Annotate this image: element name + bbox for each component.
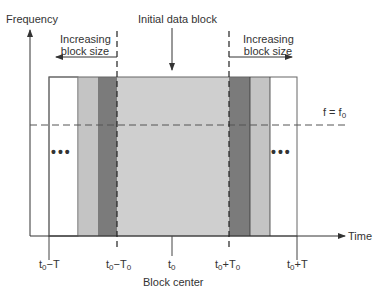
frequency-line-label: f = f0 — [323, 106, 346, 118]
dots-left: ••• — [51, 146, 72, 158]
dots-right: ••• — [271, 146, 292, 158]
light-block-right — [250, 77, 270, 236]
tick-label-t0: t0 — [168, 258, 176, 270]
increasing-right-label: Increasing block size — [243, 33, 293, 57]
block-center-label: Block center — [143, 276, 204, 288]
blocks — [49, 77, 297, 236]
initial-block-label: Initial data block — [138, 13, 217, 25]
light-block-left — [78, 77, 98, 236]
tick-label-t0-minus-T: t0−T — [39, 258, 60, 270]
y-axis-label: Frequency — [6, 13, 58, 25]
increasing-left-label: Increasing block size — [60, 33, 110, 57]
tick-label-t0-plus-T0: t0+T0 — [215, 258, 240, 270]
tick-label-t0-plus-T: t0+T — [287, 258, 308, 270]
dark-block-right — [229, 77, 250, 236]
x-axis-label: Time — [348, 230, 372, 242]
initial-data-block — [117, 77, 229, 236]
tick-label-t0-minus-T0: t0−T0 — [106, 258, 131, 270]
dark-block-left — [98, 77, 117, 236]
